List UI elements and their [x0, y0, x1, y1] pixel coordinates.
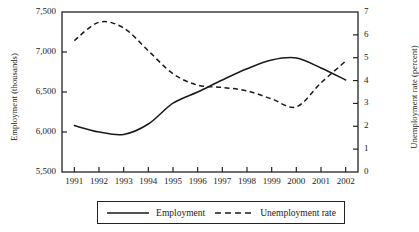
legend-swatch-solid-icon — [106, 208, 150, 218]
left-tick-label: 6,000 — [16, 126, 56, 136]
left-tick-label: 5,500 — [16, 166, 56, 176]
right-tick-label: 7 — [364, 6, 404, 16]
x-axis-ticks — [74, 167, 345, 172]
series-line-unemployment-rate — [74, 22, 345, 108]
right-tick-label: 2 — [364, 120, 404, 130]
legend-item-employment: Employment — [106, 208, 205, 218]
right-tick-label: 3 — [364, 97, 404, 107]
legend-label-employment: Employment — [156, 208, 205, 218]
left-tick-label: 7,000 — [16, 46, 56, 56]
right-tick-label: 4 — [364, 75, 404, 85]
right-tick-label: 5 — [364, 52, 404, 62]
x-tick-label: 2002 — [326, 176, 366, 186]
right-tick-label: 1 — [364, 143, 404, 153]
left-axis-ticks — [62, 52, 67, 132]
right-axis-ticks — [353, 35, 358, 149]
legend-item-unemployment-rate: Unemployment rate — [214, 208, 336, 218]
left-tick-label: 7,500 — [16, 6, 56, 16]
chart-legend: Employment Unemployment rate — [97, 201, 345, 224]
right-tick-label: 6 — [364, 29, 404, 39]
right-tick-label: 0 — [364, 166, 404, 176]
legend-label-unemployment-rate: Unemployment rate — [260, 208, 336, 218]
left-tick-label: 6,500 — [16, 86, 56, 96]
series-line-employment — [74, 57, 345, 134]
legend-swatch-dashed-icon — [214, 208, 254, 218]
